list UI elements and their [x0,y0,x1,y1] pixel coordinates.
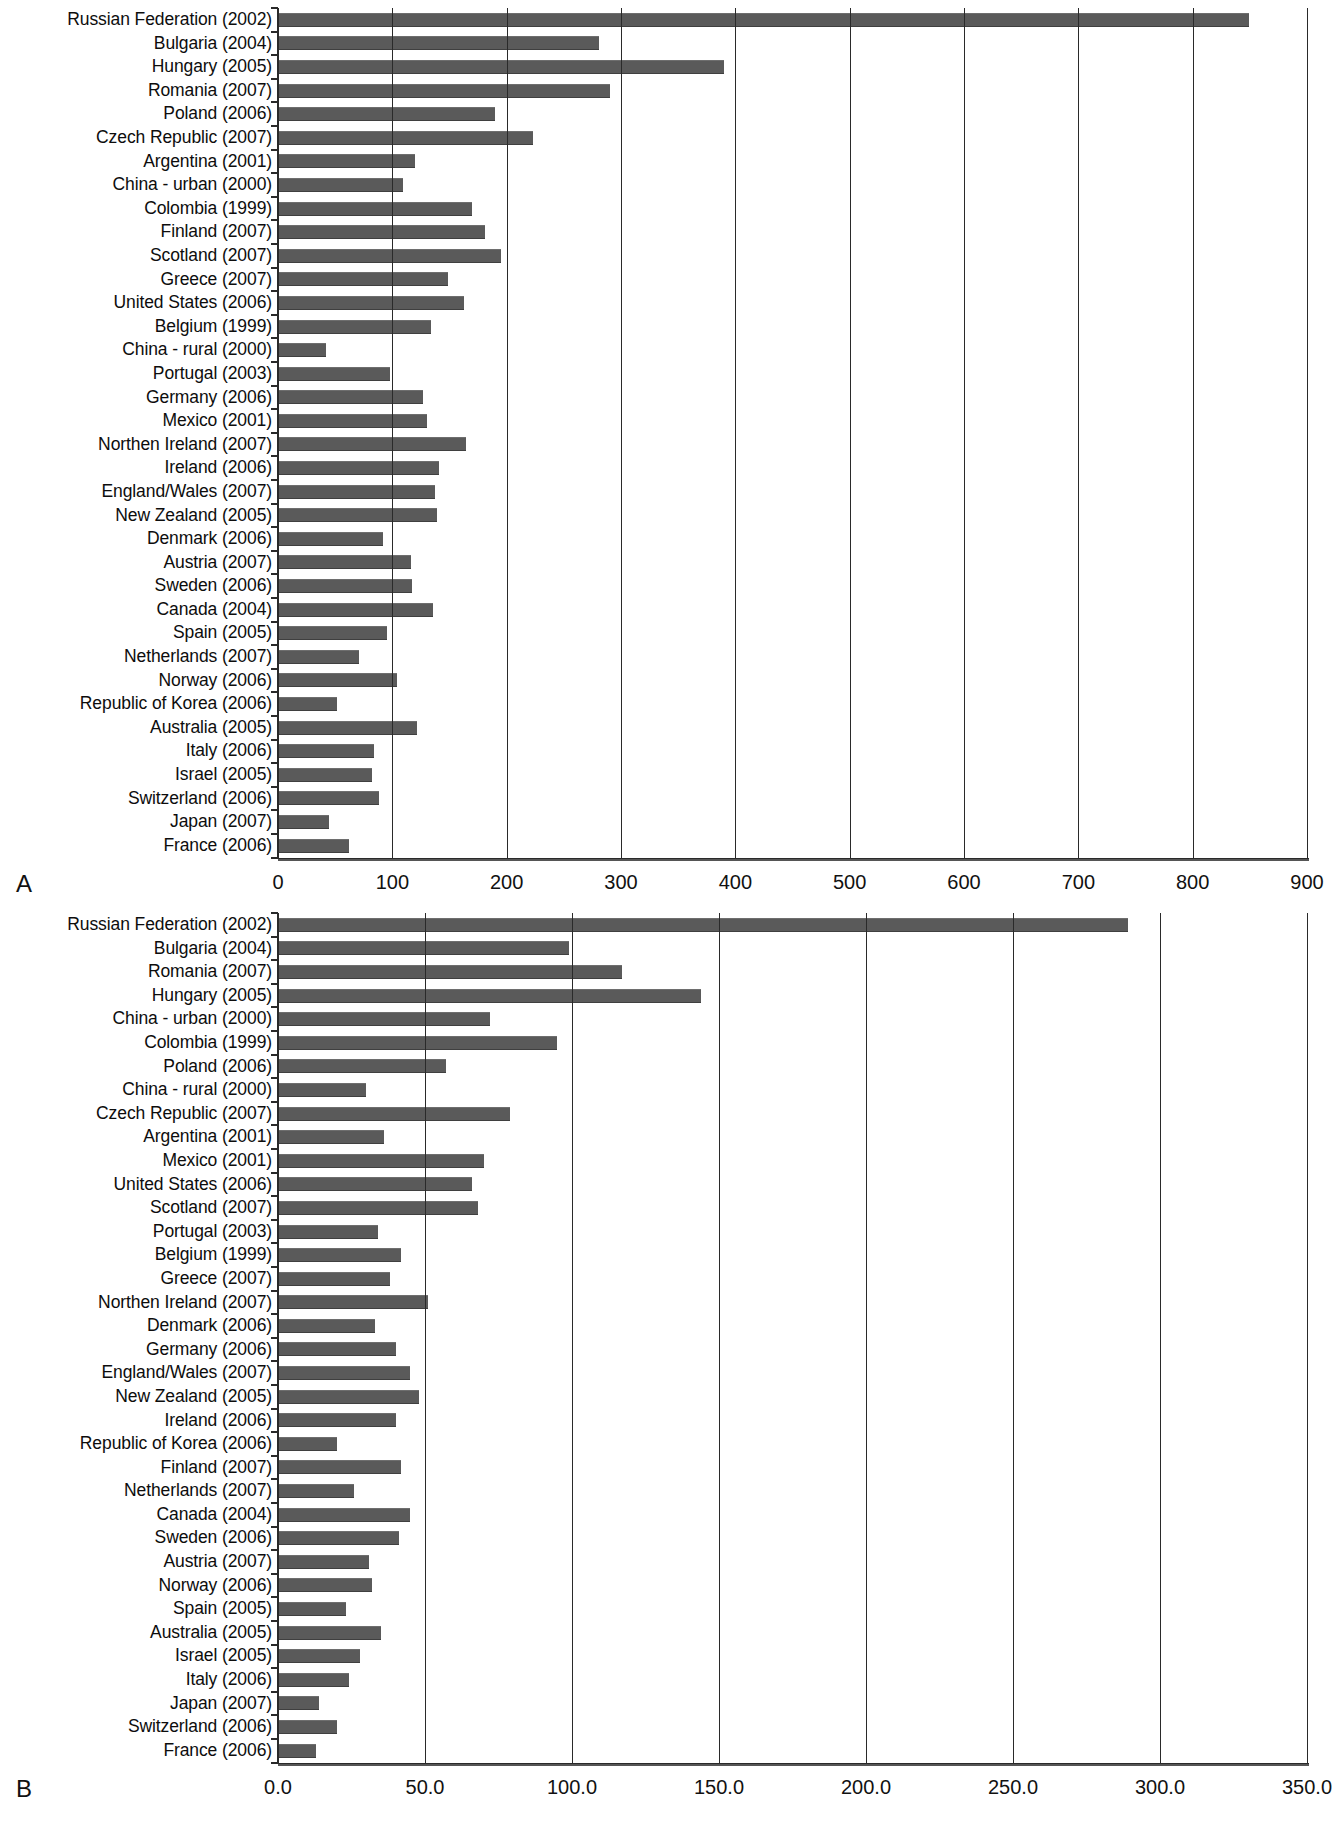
y-axis-tick [271,1077,278,1079]
category-label: Romania (2007) [0,82,278,100]
category-label: Northen Ireland (2007) [0,436,278,454]
category-label: Switzerland (2006) [0,1718,278,1736]
category-label: Canada (2004) [0,1506,278,1524]
y-axis-tick [271,1667,278,1669]
y-axis-tick [271,1644,278,1646]
bar-row: Netherlands (2007) [0,1479,1318,1503]
bar-track [278,1644,1318,1668]
y-axis-tick [271,149,278,151]
bar-track [278,1692,1318,1716]
category-label: Switzerland (2006) [0,790,278,808]
category-label: Poland (2006) [0,1058,278,1076]
category-label: England/Wales (2007) [0,483,278,501]
bar-row: Australia (2005) [0,1621,1318,1645]
bar-row: Austria (2007) [0,1550,1318,1574]
category-label: Republic of Korea (2006) [0,1435,278,1453]
category-label: Colombia (1999) [0,1034,278,1052]
bar-track [278,1196,1318,1220]
panel-letter-a: A [16,872,32,896]
x-axis-tick [621,849,622,858]
bar-row: Czech Republic (2007) [0,1102,1318,1126]
category-label: Finland (2007) [0,223,278,241]
bar-track [278,527,1318,551]
bar [278,1012,490,1026]
bar-row: New Zealand (2005) [0,503,1318,527]
bar [278,414,427,428]
y-axis-tick [271,385,278,387]
category-label: France (2006) [0,837,278,855]
y-axis-tick [271,1762,278,1764]
bar-row: Austria (2007) [0,551,1318,575]
bar [278,1720,337,1734]
y-axis-tick [271,1313,278,1315]
bar-track [278,1078,1318,1102]
bar-track [278,315,1318,339]
y-axis-tick [271,1242,278,1244]
y-axis-tick [271,1620,278,1622]
bar-row: Switzerland (2006) [0,1715,1318,1739]
category-label: Israel (2005) [0,766,278,784]
x-tick-label: 700 [1062,872,1095,892]
x-axis-tick [1078,849,1079,858]
bar [278,1201,478,1215]
bar-track [278,669,1318,693]
bar-row: Northen Ireland (2007) [0,1291,1318,1315]
x-tick-label: 200 [490,872,523,892]
category-label: Sweden (2006) [0,1529,278,1547]
bar [278,1602,346,1616]
bar-track [278,1149,1318,1173]
bar [278,367,390,381]
bar-track [278,1479,1318,1503]
category-label: Republic of Korea (2006) [0,695,278,713]
bar-row: Japan (2007) [0,1692,1318,1716]
bar-row: Argentina (2001) [0,150,1318,174]
bar-track [278,79,1318,103]
bar-track [278,244,1318,268]
bar [278,941,569,955]
category-label: Hungary (2005) [0,987,278,1005]
bar-track [278,433,1318,457]
bar [278,989,701,1003]
bar-track [278,386,1318,410]
bar [278,768,372,782]
bar-track [278,8,1318,32]
category-label: Finland (2007) [0,1459,278,1477]
bar-track [278,1031,1318,1055]
y-axis-tick [271,408,278,410]
bar [278,532,383,546]
bar-track [278,1715,1318,1739]
y-axis-tick [271,833,278,835]
bar-row: Finland (2007) [0,220,1318,244]
bar [278,1508,410,1522]
bar-row: New Zealand (2005) [0,1385,1318,1409]
bar-track [278,1385,1318,1409]
category-label: China - rural (2000) [0,341,278,359]
y-axis-tick [271,1691,278,1693]
bar-row: Portugal (2003) [0,1220,1318,1244]
category-label: Austria (2007) [0,1553,278,1571]
x-tick-label: 800 [1176,872,1209,892]
bar-track [278,1432,1318,1456]
y-axis-tick [271,455,278,457]
category-label: Denmark (2006) [0,530,278,548]
bar-track [278,1338,1318,1362]
bar-row: Norway (2006) [0,669,1318,693]
bar-row: Poland (2006) [0,102,1318,126]
bar-track [278,810,1318,834]
bar-track [278,692,1318,716]
bar [278,225,485,239]
bar-row: Israel (2005) [0,763,1318,787]
x-axis-tick [507,849,508,858]
x-tick-label: 300.0 [1135,1777,1185,1797]
bar-track [278,409,1318,433]
y-axis-tick [271,809,278,811]
category-label: Netherlands (2007) [0,1482,278,1500]
y-axis-tick [271,1006,278,1008]
bar-row: Denmark (2006) [0,1314,1318,1338]
y-axis-tick [271,1502,278,1504]
bar-track [278,1739,1318,1763]
y-axis-tick [271,101,278,103]
category-label: New Zealand (2005) [0,507,278,525]
bar [278,320,431,334]
bar-track [278,102,1318,126]
